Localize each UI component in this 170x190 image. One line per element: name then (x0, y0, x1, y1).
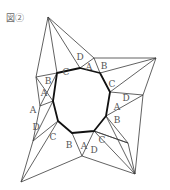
triangle-label-top-C: C (63, 67, 70, 77)
edge-line (48, 17, 94, 58)
triangle-label-bl-C: C (50, 132, 57, 142)
triangle-label-br-B: B (114, 115, 121, 125)
edge-line (21, 141, 33, 182)
pinwheel-diagram: BCDABCDABCDABCDAA (0, 0, 170, 190)
triangle-label-br-D: D (90, 145, 97, 155)
central-polygon (53, 68, 110, 133)
edge-line (48, 17, 80, 68)
triangle-label-right-D: D (122, 93, 129, 103)
triangle-label-top-D: D (76, 52, 83, 62)
edge-line (48, 17, 57, 73)
edge-line (94, 58, 100, 73)
edge-line (21, 156, 82, 182)
triangle-label-br-A: A (80, 141, 88, 151)
triangle-label-right-A: A (113, 102, 121, 112)
triangle-label-bl-B: B (66, 140, 73, 150)
triangle-label-top-B: B (45, 76, 52, 86)
edge-line (143, 58, 156, 95)
triangle-label-left-A: A (40, 88, 48, 98)
edge-line (135, 95, 143, 174)
edge-line (110, 58, 156, 92)
triangle-label-right-C: C (109, 79, 116, 89)
triangle-label-right-B: B (101, 61, 108, 71)
edge-line (100, 58, 156, 73)
triangle-label-bl-A: A (29, 105, 37, 115)
thin-lines (21, 17, 156, 182)
edge-line (36, 17, 48, 77)
central-nonagon (53, 68, 110, 133)
triangle-label-top-A: A (85, 62, 93, 72)
triangle-label-br-C: C (99, 135, 106, 145)
edge-line (128, 143, 135, 174)
triangle-label-bl-D: D (32, 122, 39, 132)
